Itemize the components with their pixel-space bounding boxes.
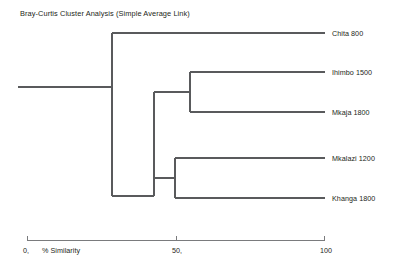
leaf-label-khanga-1800: Khanga 1800	[332, 194, 375, 203]
dendrogram-plot	[0, 0, 395, 274]
axis-caption-similarity: % Similarity	[42, 246, 80, 255]
axis-tick-label-50: 50,	[172, 246, 182, 255]
leaf-label-mkaja-1800: Mkaja 1800	[332, 108, 370, 117]
axis-tick-label-100: 100	[320, 246, 332, 255]
dendrogram-tree	[18, 33, 325, 198]
leaf-label-chita-800: Chita 800	[332, 29, 363, 38]
axis-tick-label-0: 0,	[23, 246, 29, 255]
leaf-label-ihimbo-1500: Ihimbo 1500	[332, 68, 372, 77]
x-axis	[27, 236, 325, 240]
leaf-label-mkalazi-1200: Mkalazi 1200	[332, 154, 375, 163]
dendrogram-figure: Bray-Curtis Cluster Analysis (Simple Ave…	[0, 0, 395, 274]
